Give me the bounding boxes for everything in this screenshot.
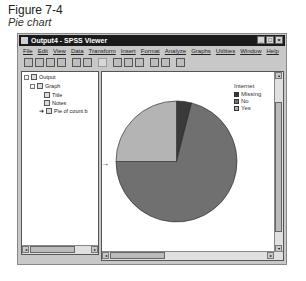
scroll-thumb[interactable] xyxy=(110,252,165,259)
menu-insert[interactable]: Insert xyxy=(121,47,136,56)
page-icon xyxy=(44,92,50,98)
scroll-right-arrow[interactable]: ▸ xyxy=(267,252,274,259)
legend-swatch xyxy=(234,92,239,97)
outline-horizontal-scrollbar[interactable]: ◂ ▸ xyxy=(22,245,98,254)
recall-dialog-icon[interactable] xyxy=(83,58,92,67)
tree-item-graph[interactable]: - Graph xyxy=(30,83,60,89)
scroll-thumb[interactable] xyxy=(30,246,75,253)
export-icon[interactable] xyxy=(72,58,81,67)
page-icon xyxy=(44,100,50,106)
menu-data[interactable]: Data xyxy=(71,47,84,56)
tree-item-pie-chart[interactable]: ➜ Pie of count b xyxy=(39,108,88,114)
content-horizontal-scrollbar[interactable]: ◂ ▸ xyxy=(102,251,283,260)
menu-window[interactable]: Window xyxy=(240,47,261,56)
pie-chart[interactable] xyxy=(115,100,238,223)
undo-icon[interactable] xyxy=(98,58,107,67)
spss-viewer-window: Output4 - SPSS Viewer _ □ × File Edit Vi… xyxy=(17,33,287,265)
title-bar[interactable]: Output4 - SPSS Viewer _ □ × xyxy=(19,35,285,46)
variables-icon[interactable] xyxy=(161,58,170,67)
menu-file[interactable]: File xyxy=(23,47,33,56)
scroll-left-arrow[interactable]: ◂ xyxy=(102,252,109,259)
selection-arrow-icon: ➜ xyxy=(39,108,44,114)
close-button[interactable]: × xyxy=(275,36,283,44)
pie-slice-yes[interactable] xyxy=(116,101,177,162)
legend-item-missing: Missing xyxy=(234,91,261,97)
help-icon[interactable] xyxy=(176,58,185,67)
menu-edit[interactable]: Edit xyxy=(38,47,48,56)
insert-icon[interactable] xyxy=(135,58,144,67)
outline-pane: - Output - Graph Title Notes ➜ Pie of co… xyxy=(21,71,99,255)
book-icon xyxy=(37,83,43,89)
goto-data-icon[interactable] xyxy=(113,58,122,67)
menu-help[interactable]: Help xyxy=(267,47,279,56)
app-icon xyxy=(21,37,28,44)
chart-icon[interactable] xyxy=(150,58,159,67)
tree-item-output[interactable]: - Output xyxy=(24,74,56,80)
legend-item-no: No xyxy=(234,98,261,104)
scroll-up-arrow[interactable]: ▴ xyxy=(275,72,282,79)
tree-item-notes[interactable]: Notes xyxy=(44,100,66,106)
open-icon[interactable] xyxy=(24,58,33,67)
chart-page-icon xyxy=(46,108,52,114)
book-icon xyxy=(31,74,37,80)
legend-swatch xyxy=(234,106,239,111)
menu-utilities[interactable]: Utilities xyxy=(216,47,235,56)
legend-swatch xyxy=(234,99,239,104)
figure-caption: Pie chart xyxy=(8,16,51,28)
window-title: Output4 - SPSS Viewer xyxy=(31,35,107,46)
chart-legend: Internet Missing No Yes xyxy=(234,83,261,112)
menu-analyze[interactable]: Analyze xyxy=(165,47,186,56)
content-pane: → Internet Missing No Yes ▴ xyxy=(101,71,284,261)
toolbar xyxy=(20,57,284,69)
menu-transform[interactable]: Transform xyxy=(89,47,116,56)
maximize-button[interactable]: □ xyxy=(266,36,274,44)
goto-case-icon[interactable] xyxy=(124,58,133,67)
legend-item-yes: Yes xyxy=(234,105,261,111)
collapse-icon[interactable]: - xyxy=(30,84,35,89)
save-icon[interactable] xyxy=(35,58,44,67)
legend-title: Internet xyxy=(234,83,261,89)
print-preview-icon[interactable] xyxy=(57,58,66,67)
scroll-left-arrow[interactable]: ◂ xyxy=(22,246,29,253)
current-item-arrow-icon: → xyxy=(101,159,109,168)
print-icon[interactable] xyxy=(46,58,55,67)
menu-graphs[interactable]: Graphs xyxy=(191,47,211,56)
minimize-button[interactable]: _ xyxy=(257,36,265,44)
menu-bar: File Edit View Data Transform Insert For… xyxy=(20,47,284,56)
content-vertical-scrollbar[interactable]: ▴ ▾ xyxy=(274,72,283,252)
tree-item-title[interactable]: Title xyxy=(44,92,62,98)
menu-view[interactable]: View xyxy=(53,47,66,56)
collapse-icon[interactable]: - xyxy=(24,75,29,80)
figure-label: Figure 7-4 xyxy=(8,3,63,17)
scroll-thumb[interactable] xyxy=(275,102,282,232)
scroll-right-arrow[interactable]: ▸ xyxy=(91,246,98,253)
menu-format[interactable]: Format xyxy=(141,47,160,56)
